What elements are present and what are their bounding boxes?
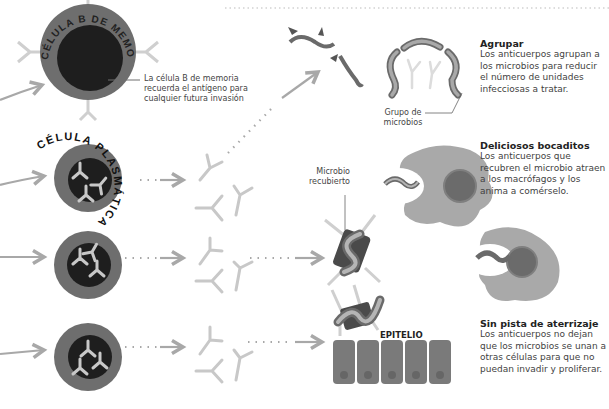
section-title: Sin pista de aterrizaje [480,318,608,329]
section-body: Los anticuerpos que recubren el microbio… [480,151,608,197]
plasma-cell-2 [54,231,122,299]
epithelium-microbe [332,285,380,336]
memory-cell-caption: La célula B de memoria recuerda el antíg… [144,74,274,104]
epithelium-cells [333,340,451,384]
macrophage-1 [372,145,493,226]
microbe-group [390,41,458,95]
antibody-cluster-1 [196,155,252,220]
microbe-free [290,37,362,85]
microbe-group-label: Grupo de microbios [378,108,428,128]
plasma-cell-3 [54,323,122,391]
coated-microbe-label: Microbio recubierto [295,167,350,187]
antibody-cluster-2 [196,238,252,292]
coated-microbe [325,195,380,285]
section-body: Los anticuerpos agrupan a los microbios … [480,49,605,95]
section-body: Los anticuerpos no dejan que los microbi… [480,329,608,375]
section-title: Deliciosos bocaditos [480,140,608,151]
antibody-cluster-3 [196,327,252,382]
epithelium-label: EPITELIO [380,330,423,340]
section-agrupar: Agrupar Los anticuerpos agrupan a los mi… [480,38,605,95]
macrophage-2 [466,227,560,301]
section-title: Agrupar [480,38,605,49]
section-sin-pista: Sin pista de aterrizaje Los anticuerpos … [480,318,608,375]
section-deliciosos: Deliciosos bocaditos Los anticuerpos que… [480,140,608,197]
